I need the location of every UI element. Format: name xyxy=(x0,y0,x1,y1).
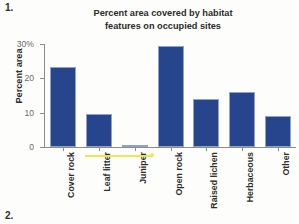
x-tick-mark xyxy=(171,148,172,151)
figure-number-top: 1. xyxy=(5,2,13,13)
y-tick-label: 20 xyxy=(24,73,34,83)
y-tick-mark: 0 xyxy=(40,147,44,148)
chart-title: Percent area covered by habitat features… xyxy=(52,7,274,32)
x-tick-mark xyxy=(135,148,136,151)
y-tick-mark: 20 xyxy=(40,78,44,79)
y-tick-mark: 10 xyxy=(40,113,44,114)
highlighter-stroke xyxy=(85,155,153,157)
bar xyxy=(265,116,291,147)
x-tick-mark xyxy=(242,148,243,151)
figure-number-bottom: 2. xyxy=(5,210,13,221)
x-axis-label: Other xyxy=(281,152,291,224)
x-axis-label: Juniper xyxy=(138,152,148,224)
figure-page: 1. Percent area covered by habitat featu… xyxy=(0,0,299,224)
y-tick-mark: 30% xyxy=(40,44,44,45)
x-axis-label: Herbaceous xyxy=(245,152,255,224)
plot-area: 0102030% xyxy=(44,44,296,148)
x-axis-label: Cover rock xyxy=(66,152,76,224)
x-tick-mark xyxy=(99,148,100,151)
x-axis-label: Leaf litter xyxy=(102,152,112,224)
bar xyxy=(229,92,255,147)
x-axis-label: Raised lichen xyxy=(209,152,219,224)
x-axis-label: Open rock xyxy=(174,152,184,224)
chart-title-line-2: features on occupied sites xyxy=(52,20,274,33)
x-tick-mark xyxy=(206,148,207,151)
bar xyxy=(50,67,76,147)
bar-series xyxy=(45,44,296,147)
bar xyxy=(122,145,148,147)
bar xyxy=(86,114,112,147)
bar xyxy=(193,99,219,147)
x-tick-mark xyxy=(278,148,279,151)
x-tick-mark xyxy=(63,148,64,151)
y-tick-label: 0 xyxy=(29,142,34,152)
y-tick-label: 30% xyxy=(17,39,34,49)
category-label-layer: Cover rockLeaf litterJuniperOpen rockRai… xyxy=(44,152,296,218)
bar xyxy=(158,46,184,147)
highlighter-stroke-tip xyxy=(150,153,154,157)
chart-title-line-1: Percent area covered by habitat xyxy=(52,7,274,20)
y-tick-label: 10 xyxy=(24,108,34,118)
